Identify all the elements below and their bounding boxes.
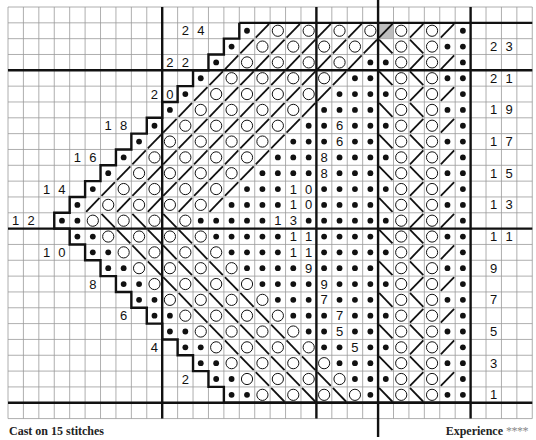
dot-icon [460, 28, 466, 34]
dot-icon [105, 170, 111, 176]
left-slant-icon [256, 309, 269, 323]
dot-icon [321, 265, 327, 271]
left-slant-icon [410, 388, 423, 402]
row-number-label: 1 [105, 118, 112, 133]
left-slant-icon [271, 388, 284, 402]
right-slant-icon [410, 214, 423, 228]
row-number-label: 0 [305, 182, 312, 197]
dot-icon [290, 281, 296, 287]
right-slant-icon [163, 150, 176, 164]
dot-icon [229, 392, 235, 398]
left-slant-icon [302, 356, 315, 370]
right-slant-icon [117, 198, 130, 212]
dot-icon [460, 91, 466, 97]
circle-icon [180, 215, 191, 226]
dot-icon [367, 297, 373, 303]
circle-icon [272, 57, 283, 68]
dot-icon [337, 234, 343, 240]
dot-icon [367, 91, 373, 97]
right-slant-icon [317, 24, 330, 38]
circle-icon [426, 183, 437, 194]
circle-icon [211, 342, 222, 353]
dot-icon [229, 202, 235, 208]
chart-row-20: 20 [151, 87, 466, 102]
experience-rating: Experience **** [446, 424, 528, 439]
dot-icon [275, 281, 281, 287]
circle-icon [257, 358, 268, 369]
dot-icon [198, 360, 204, 366]
left-slant-icon [209, 261, 222, 275]
row-number-label: 2 [182, 23, 189, 38]
circle-icon [426, 152, 437, 163]
dot-icon [352, 313, 358, 319]
dot-icon [321, 234, 327, 240]
circle-icon [241, 373, 252, 384]
right-slant-icon [102, 182, 115, 196]
dot-icon [229, 218, 235, 224]
right-slant-icon [132, 150, 145, 164]
circle-icon [118, 183, 129, 194]
circle-icon [319, 389, 330, 400]
circle-icon [426, 199, 437, 210]
dot-icon [460, 329, 466, 335]
chart-row-13: 1013 [74, 197, 512, 212]
right-slant-icon [240, 71, 253, 85]
cast-on-note: Cast on 15 stitches [9, 424, 104, 439]
left-slant-icon [194, 245, 207, 259]
left-slant-icon [410, 230, 423, 244]
circle-icon [288, 73, 299, 84]
left-slant-icon [132, 214, 145, 228]
dot-icon [244, 202, 250, 208]
circle-icon [288, 358, 299, 369]
right-slant-icon [302, 103, 315, 117]
left-slant-icon [410, 71, 423, 85]
dot-icon [460, 60, 466, 66]
circle-icon [180, 152, 191, 163]
dot-icon [198, 344, 204, 350]
dot-icon [367, 313, 373, 319]
left-slant-icon [271, 325, 284, 339]
left-slant-icon [410, 135, 423, 149]
dot-icon [337, 186, 343, 192]
dot-icon [182, 344, 188, 350]
circle-icon [211, 247, 222, 258]
circle-icon [396, 120, 407, 131]
circle-icon [103, 231, 114, 242]
circle-icon [426, 231, 437, 242]
dot-icon [182, 329, 188, 335]
dot-icon [275, 202, 281, 208]
right-slant-icon [364, 40, 377, 54]
dot-icon [352, 376, 358, 382]
dot-icon [321, 186, 327, 192]
right-slant-icon [287, 55, 300, 69]
circle-icon [426, 88, 437, 99]
dot-icon [229, 249, 235, 255]
circle-icon [257, 326, 268, 337]
dot-icon [367, 139, 373, 145]
dot-icon [460, 123, 466, 129]
row-number-label: 7 [506, 134, 513, 149]
right-slant-icon [441, 309, 454, 323]
circle-icon [195, 104, 206, 115]
right-slant-icon [225, 182, 238, 196]
dot-icon [306, 154, 312, 160]
dot-icon [306, 139, 312, 145]
circle-icon [349, 41, 360, 52]
circle-icon [303, 373, 314, 384]
dot-icon [337, 218, 343, 224]
row-number-label: 1 [290, 182, 297, 197]
circle-icon [272, 25, 283, 36]
dot-icon [290, 139, 296, 145]
row-number-label: 1 [490, 229, 497, 244]
dot-icon [198, 218, 204, 224]
left-slant-icon [379, 166, 392, 180]
left-slant-icon [225, 340, 238, 354]
row-number-label: 5 [336, 324, 343, 339]
right-slant-icon [209, 166, 222, 180]
left-slant-icon [240, 325, 253, 339]
dot-icon [260, 281, 266, 287]
row-number-label: 2 [490, 71, 497, 86]
row-number-label: 3 [506, 39, 513, 54]
row-number-label: 2 [182, 55, 189, 70]
dot-icon [290, 313, 296, 319]
